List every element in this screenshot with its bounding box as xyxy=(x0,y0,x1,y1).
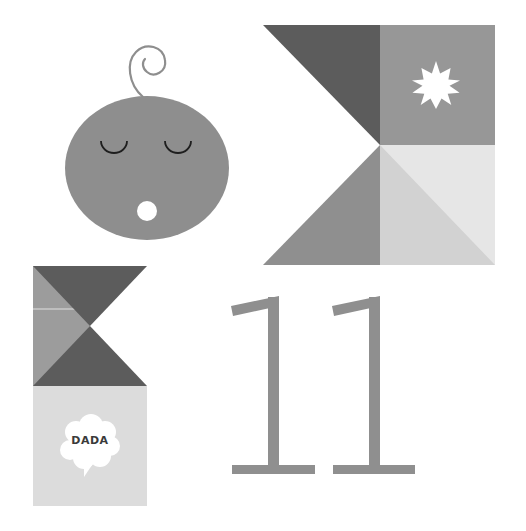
dada-panel: DADA xyxy=(33,266,147,506)
speech-bubble-text: DADA xyxy=(71,434,108,447)
digit-one-first xyxy=(231,296,315,474)
open-mouth xyxy=(137,201,157,221)
number-eleven xyxy=(231,296,415,474)
baby-face xyxy=(65,46,229,240)
hair-curl-icon xyxy=(130,46,165,97)
dark-triangle xyxy=(263,25,380,145)
sun-panel xyxy=(263,25,495,265)
medium-triangle-left xyxy=(263,145,380,265)
illustration-canvas: DADA xyxy=(0,0,526,531)
digit-one-second xyxy=(332,296,415,474)
